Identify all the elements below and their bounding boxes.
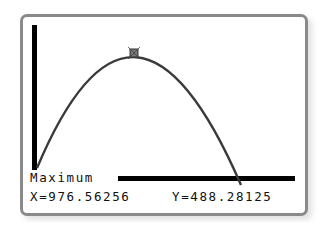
mode-label: Maximum <box>30 170 94 185</box>
x-axis <box>118 176 295 181</box>
x-readout: X=976.56256 <box>30 189 130 204</box>
y-axis <box>32 25 37 170</box>
parabola-curve <box>37 57 241 185</box>
y-readout: Y=488.28125 <box>172 189 272 204</box>
trace-cursor-icon <box>128 47 140 59</box>
